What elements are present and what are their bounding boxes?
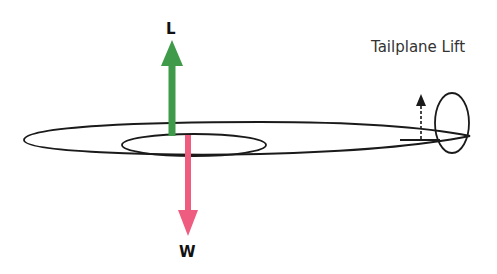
wing-outline xyxy=(122,134,266,156)
lift-arrowhead-icon xyxy=(161,40,183,66)
weight-arrowhead-icon xyxy=(178,210,198,236)
fin-outline xyxy=(435,93,469,153)
weight-label: W xyxy=(179,243,196,261)
lift-label: L xyxy=(166,20,176,38)
lift-arrow-shaft xyxy=(169,62,176,136)
tailplane-lift-arrowhead-icon xyxy=(416,94,426,106)
weight-arrow-shaft xyxy=(185,135,191,214)
tailplane-lift-label: Tailplane Lift xyxy=(371,38,465,56)
